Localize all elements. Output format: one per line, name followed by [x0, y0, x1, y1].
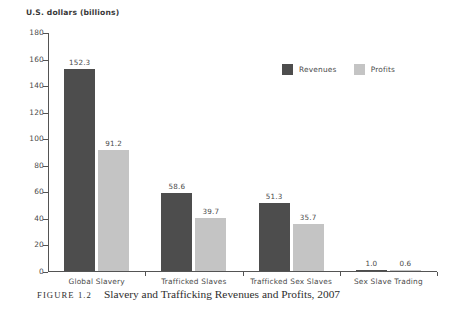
bar-value-label: 152.3: [69, 58, 90, 67]
legend-label: Revenues: [299, 65, 337, 74]
y-tick-label: 120: [29, 108, 44, 117]
bar-profits-1: 39.7: [195, 218, 226, 271]
bar-value-label: 91.2: [105, 139, 122, 148]
bar-value-label: 39.7: [203, 207, 220, 216]
bar-profits-0: 91.2: [98, 150, 129, 271]
bar-revenues-0: 152.3: [64, 69, 95, 271]
legend-swatch-icon: [282, 64, 293, 75]
category-label-2: Trafficked Sex Slaves: [250, 277, 332, 286]
legend-label: Profits: [371, 65, 396, 74]
x-tick-mark: [243, 272, 244, 276]
y-tick-label: 160: [29, 55, 44, 64]
y-tick-label: 40: [34, 214, 44, 223]
category-label-3: Sex Slave Trading: [354, 277, 423, 286]
y-tick-label: 140: [29, 81, 44, 90]
caption-title: Slavery and Trafficking Revenues and Pro…: [104, 288, 340, 300]
legend-item-profits: Profits: [354, 64, 396, 75]
bar-revenues-1: 58.6: [161, 193, 192, 271]
caption-figure-number: FIGURE 1.2: [37, 290, 92, 300]
bar-value-label: 35.7: [300, 213, 317, 222]
bar-revenues-2: 51.3: [259, 203, 290, 271]
category-label-1: Trafficked Slaves: [161, 277, 226, 286]
bar-value-label: 58.6: [169, 182, 186, 191]
category-label-0: Global Slavery: [68, 277, 124, 286]
y-axis-line: [48, 33, 49, 272]
y-tick-label: 100: [29, 134, 44, 143]
bar-revenues-3: 1.0: [356, 270, 387, 272]
bar-profits-3: 0.6: [390, 270, 421, 272]
y-axis-title: U.S. dollars (billions): [26, 8, 119, 17]
chart-legend: RevenuesProfits: [282, 64, 395, 75]
bar-value-label: 0.6: [399, 259, 411, 268]
legend-swatch-icon: [354, 64, 365, 75]
x-tick-mark: [340, 272, 341, 276]
x-tick-mark: [145, 272, 146, 276]
bar-value-label: 1.0: [365, 259, 377, 268]
y-tick-label: 80: [34, 161, 44, 170]
bar-value-label: 51.3: [266, 192, 283, 201]
y-tick-label: 0: [39, 267, 44, 276]
bar-profits-2: 35.7: [293, 224, 324, 271]
y-tick-label: 20: [34, 240, 44, 249]
legend-item-revenues: Revenues: [282, 64, 337, 75]
y-tick-label: 60: [34, 187, 44, 196]
x-tick-mark: [437, 272, 438, 276]
figure-caption: FIGURE 1.2 Slavery and Trafficking Reven…: [37, 288, 340, 300]
y-tick-label: 180: [29, 28, 44, 37]
